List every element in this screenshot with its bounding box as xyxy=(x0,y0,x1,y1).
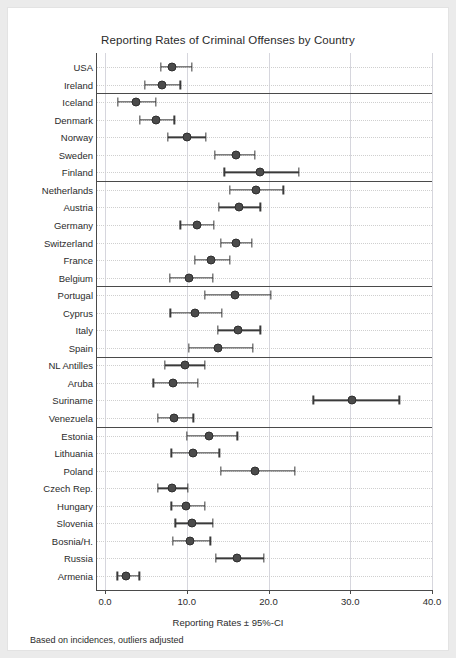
y-axis-label-norway: Norway xyxy=(61,132,97,143)
error-bar-cap xyxy=(160,63,161,72)
error-bar-cap xyxy=(260,203,261,212)
error-bar-cap xyxy=(252,343,253,352)
error-bar-cap xyxy=(153,378,154,387)
chart-footnote: Based on incidences, outliers adjusted xyxy=(30,635,184,645)
row-gridline xyxy=(97,225,432,227)
error-bar-cap xyxy=(171,501,172,510)
y-axis-label-czech-rep: Czech Rep. xyxy=(43,483,97,494)
group-separator xyxy=(97,181,432,182)
row-gridline xyxy=(97,330,432,332)
error-bar-cap xyxy=(144,80,145,89)
data-point-marker xyxy=(132,98,141,107)
row-gridline xyxy=(97,137,432,139)
data-point-marker xyxy=(234,326,243,335)
error-bar-cap xyxy=(251,238,252,247)
data-point-marker xyxy=(182,133,191,142)
data-point-marker xyxy=(158,80,167,89)
error-bar-cap xyxy=(180,220,181,229)
y-axis-label-lithuania: Lithuania xyxy=(54,448,97,459)
data-point-marker xyxy=(122,572,131,581)
error-bar-cap xyxy=(172,536,173,545)
data-point-marker xyxy=(168,484,177,493)
x-gridline xyxy=(432,53,433,590)
y-axis-label-bosnia-h: Bosnia/H. xyxy=(52,535,97,546)
error-bar-cap xyxy=(220,466,221,475)
data-point-marker xyxy=(231,150,240,159)
error-bar-cap xyxy=(194,256,195,265)
data-point-marker xyxy=(256,168,265,177)
row-gridline xyxy=(97,488,432,490)
row-gridline xyxy=(97,383,432,385)
x-axis-tick-label: 20.0 xyxy=(259,596,278,607)
x-axis-tick xyxy=(105,590,106,594)
y-axis-label-armenia: Armenia xyxy=(58,571,97,582)
y-axis-label-venezuela: Venezuela xyxy=(49,413,97,424)
group-separator xyxy=(97,93,432,94)
row-gridline xyxy=(97,436,432,438)
data-point-marker xyxy=(235,203,244,212)
error-bar-cap xyxy=(263,554,264,563)
data-point-marker xyxy=(231,238,240,247)
data-point-marker xyxy=(193,220,202,229)
error-bar-cap xyxy=(175,519,176,528)
x-axis-tick xyxy=(432,590,433,594)
y-axis-label-sweden: Sweden xyxy=(59,149,97,160)
y-axis-label-italy: Italy xyxy=(76,325,97,336)
error-bar-cap xyxy=(187,484,188,493)
row-gridline xyxy=(97,313,432,315)
row-gridline xyxy=(97,576,432,578)
error-bar-cap xyxy=(313,396,314,405)
error-bar-cap xyxy=(220,238,221,247)
row-gridline xyxy=(97,207,432,209)
x-axis-tick-label: 30.0 xyxy=(341,596,360,607)
error-bar-cap xyxy=(210,536,211,545)
group-separator xyxy=(97,286,432,287)
error-bar-cap xyxy=(229,185,230,194)
row-gridline xyxy=(97,506,432,508)
row-gridline xyxy=(97,348,432,350)
y-axis-label-portugal: Portugal xyxy=(58,290,97,301)
error-bar-cap xyxy=(224,168,225,177)
x-gridline xyxy=(269,53,270,590)
row-gridline xyxy=(97,278,432,280)
error-bar-cap xyxy=(204,361,205,370)
error-bar-cap xyxy=(193,414,194,423)
row-gridline xyxy=(97,541,432,543)
error-bar-cap xyxy=(216,554,217,563)
row-gridline xyxy=(97,418,432,420)
data-point-marker xyxy=(170,414,179,423)
data-point-marker xyxy=(190,308,199,317)
x-axis-tick xyxy=(350,590,351,594)
error-bar-cap xyxy=(164,361,165,370)
error-bar-cap xyxy=(174,115,175,124)
group-separator xyxy=(97,357,432,358)
x-axis-tick-label: 10.0 xyxy=(178,596,197,607)
error-bar-cap xyxy=(191,63,192,72)
data-point-marker xyxy=(168,63,177,72)
y-axis-label-nl-antilles: NL Antilles xyxy=(48,360,97,371)
error-bar-cap xyxy=(167,133,168,142)
y-axis-label-netherlands: Netherlands xyxy=(42,184,97,195)
data-point-marker xyxy=(181,501,190,510)
error-bar-cap xyxy=(139,572,140,581)
error-bar-cap xyxy=(399,396,400,405)
x-axis-tick-label: 40.0 xyxy=(423,596,442,607)
error-bar-cap xyxy=(169,273,170,282)
data-point-marker xyxy=(151,115,160,124)
error-bar-cap xyxy=(198,378,199,387)
plot-area: 0.010.020.030.040.0USAIrelandIcelandDenm… xyxy=(96,53,432,591)
error-bar-cap xyxy=(204,291,205,300)
x-axis-title: Reporting Rates ± 95%-CI xyxy=(8,617,448,628)
x-axis-tick xyxy=(269,590,270,594)
row-gridline xyxy=(97,155,432,157)
error-bar-cap xyxy=(219,449,220,458)
y-axis-label-iceland: Iceland xyxy=(62,97,97,108)
error-bar-cap xyxy=(217,326,218,335)
error-bar-cap xyxy=(171,449,172,458)
error-bar-cap xyxy=(218,203,219,212)
y-axis-label-germany: Germany xyxy=(54,219,97,230)
error-bar-cap xyxy=(155,98,156,107)
error-bar-cap xyxy=(189,343,190,352)
y-axis-label-usa: USA xyxy=(73,62,97,73)
y-axis-label-spain: Spain xyxy=(69,342,97,353)
